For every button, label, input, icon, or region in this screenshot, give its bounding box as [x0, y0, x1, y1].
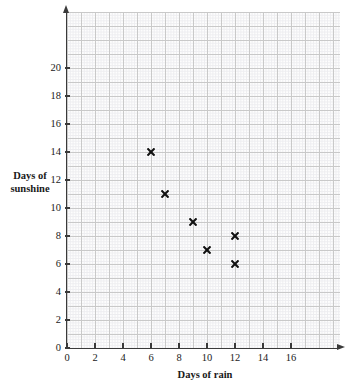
y-tick-label: 10 — [39, 202, 61, 214]
x-tick-mark — [290, 343, 291, 348]
data-point-marker — [146, 147, 157, 158]
x-tick-mark — [262, 343, 263, 348]
y-tick-mark — [65, 151, 70, 152]
y-tick-label: 4 — [39, 286, 61, 298]
y-tick-label: 0 — [39, 342, 61, 354]
x-tick-label: 16 — [279, 352, 303, 364]
x-axis-arrow-icon — [337, 344, 345, 350]
y-tick-label: 8 — [39, 230, 61, 242]
data-point-marker — [160, 189, 171, 200]
y-tick-mark — [65, 291, 70, 292]
y-tick-label: 6 — [39, 258, 61, 270]
y-tick-mark — [65, 123, 70, 124]
y-tick-label: 14 — [39, 146, 61, 158]
y-tick-label: 2 — [39, 314, 61, 326]
x-tick-label: 10 — [195, 352, 219, 364]
x-tick-mark — [178, 343, 179, 348]
y-tick-mark — [65, 179, 70, 180]
x-tick-mark — [234, 343, 235, 348]
y-tick-mark — [65, 319, 70, 320]
data-point-marker — [202, 245, 213, 256]
x-tick-label: 2 — [83, 352, 107, 364]
x-tick-label: 6 — [139, 352, 163, 364]
x-tick-mark — [206, 343, 207, 348]
y-tick-mark — [65, 235, 70, 236]
data-point-marker — [230, 231, 241, 242]
y-tick-label: 18 — [39, 90, 61, 102]
data-point-marker — [230, 259, 241, 270]
y-tick-mark — [65, 67, 70, 68]
y-tick-mark — [65, 95, 70, 96]
x-tick-label: 8 — [167, 352, 191, 364]
x-axis-title: Days of rain — [125, 369, 285, 380]
x-tick-mark — [150, 343, 151, 348]
x-tick-mark — [122, 343, 123, 348]
graph-paper-grid — [67, 12, 340, 348]
scatter-plot: 0246810121416 02468101214161820 Days of … — [0, 0, 352, 390]
y-axis-arrow-icon — [63, 5, 69, 13]
y-tick-mark — [65, 263, 70, 264]
x-tick-label: 4 — [111, 352, 135, 364]
x-axis-line — [67, 348, 339, 349]
x-tick-label: 12 — [223, 352, 247, 364]
x-tick-mark — [94, 343, 95, 348]
y-tick-mark — [65, 207, 70, 208]
x-tick-label: 14 — [251, 352, 275, 364]
y-tick-label: 16 — [39, 118, 61, 130]
y-tick-label: 20 — [39, 62, 61, 74]
y-axis-title: Days of sunshine — [2, 170, 58, 195]
y-tick-mark — [65, 347, 70, 348]
data-point-marker — [188, 217, 199, 228]
y-axis-title-line1: Days of — [13, 170, 47, 181]
y-axis-title-line2: sunshine — [10, 183, 49, 194]
